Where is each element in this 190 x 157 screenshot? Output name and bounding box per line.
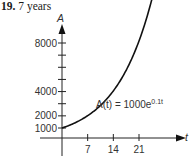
y-ticks: 1000200040008000 — [35, 38, 66, 134]
x-axis-label: t — [185, 131, 189, 143]
y-tick-label: 2000 — [35, 110, 58, 121]
x-tick-label: 7 — [85, 144, 91, 155]
y-axis-label: A — [56, 12, 64, 24]
y-axis-arrow-icon — [59, 24, 66, 34]
equation-label: A(t) = 1000e0.1t — [96, 98, 163, 110]
y-tick-label: 8000 — [35, 38, 58, 49]
x-ticks: 71421 — [85, 134, 145, 155]
y-tick-label: 4000 — [35, 86, 58, 97]
y-tick-label: 1000 — [35, 123, 58, 134]
x-tick-label: 21 — [133, 144, 145, 155]
x-tick-label: 14 — [108, 144, 120, 155]
chart: t A 71421 1000200040008000 A(t) = 1000e0… — [0, 0, 190, 157]
